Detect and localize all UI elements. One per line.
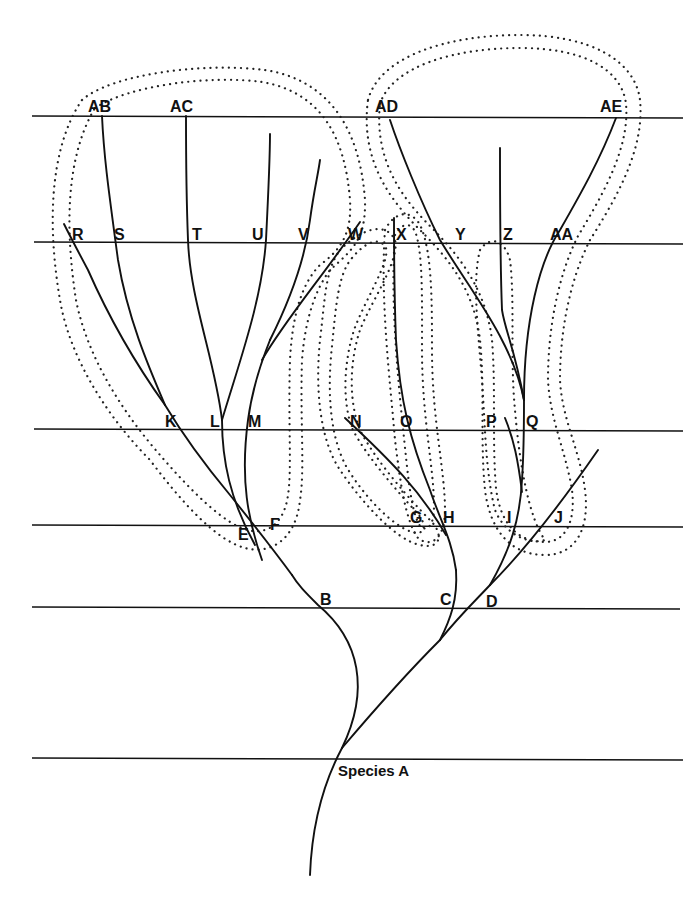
branch-l-u bbox=[222, 134, 270, 420]
node-label-b: B bbox=[320, 591, 332, 608]
node-label-ab: AB bbox=[88, 98, 111, 115]
node-label-t: T bbox=[192, 226, 202, 243]
node-labels: AB AC AD AE R S T U V W X Y Z AA K L M N… bbox=[72, 98, 623, 779]
stipple-left-clade-inner bbox=[69, 80, 350, 531]
node-label-q: Q bbox=[526, 413, 538, 430]
node-label-m: M bbox=[248, 413, 261, 430]
branch-k-r bbox=[64, 224, 165, 405]
node-label-x: X bbox=[396, 226, 407, 243]
node-label-f: F bbox=[270, 516, 280, 533]
node-label-p: P bbox=[486, 413, 497, 430]
time-line-2 bbox=[32, 607, 680, 609]
node-label-d: D bbox=[486, 593, 498, 610]
node-label-aa: AA bbox=[550, 226, 574, 243]
node-label-r: R bbox=[72, 226, 84, 243]
node-label-s: S bbox=[114, 226, 125, 243]
branch-n bbox=[345, 418, 446, 535]
branch-q-ae bbox=[524, 118, 616, 400]
stipple-middle-o-outer bbox=[384, 214, 445, 542]
stipple-left-clade-outer bbox=[53, 68, 365, 550]
node-label-h: H bbox=[443, 509, 455, 526]
node-label-n: N bbox=[350, 413, 362, 430]
node-label-o: O bbox=[400, 413, 412, 430]
time-line-1 bbox=[32, 758, 683, 760]
phylogeny-diagram: AB AC AD AE R S T U V W X Y Z AA K L M N… bbox=[0, 0, 683, 908]
node-label-ac: AC bbox=[170, 98, 194, 115]
node-label-g: G bbox=[410, 509, 422, 526]
node-label-ad: AD bbox=[375, 98, 398, 115]
node-label-ae: AE bbox=[600, 98, 623, 115]
node-label-k: K bbox=[165, 413, 177, 430]
node-label-j: J bbox=[554, 509, 563, 526]
node-label-v: V bbox=[298, 226, 309, 243]
branch-q-ad bbox=[390, 120, 524, 400]
branch-k-s-ab bbox=[102, 116, 165, 405]
node-label-species-a: Species A bbox=[338, 762, 409, 779]
time-line-6 bbox=[32, 116, 683, 118]
stipple-right-clade-inner bbox=[379, 48, 626, 542]
node-label-y: Y bbox=[455, 226, 466, 243]
node-label-e: E bbox=[238, 526, 249, 543]
branch-l-t-ac bbox=[186, 116, 222, 420]
node-label-u: U bbox=[252, 226, 264, 243]
node-label-l: L bbox=[210, 413, 220, 430]
stipple-right-p-clade bbox=[476, 241, 545, 541]
node-label-c: C bbox=[440, 591, 452, 608]
time-line-3 bbox=[32, 525, 683, 527]
branch-m-v bbox=[270, 160, 320, 340]
stippled-groups bbox=[53, 35, 641, 555]
time-lines bbox=[32, 116, 683, 760]
node-label-z: Z bbox=[503, 226, 513, 243]
node-label-w: W bbox=[348, 226, 364, 243]
node-label-i: I bbox=[507, 509, 511, 526]
